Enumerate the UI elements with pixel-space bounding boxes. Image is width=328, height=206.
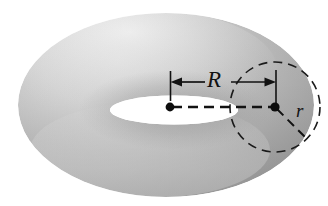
torus-figure: R r xyxy=(0,0,328,206)
tube-center-dot xyxy=(270,102,279,111)
torus-hole xyxy=(110,96,238,125)
hub-center-dot xyxy=(166,103,175,112)
minor-radius-label: r xyxy=(296,101,303,120)
torus-illustration xyxy=(0,0,328,206)
major-radius-label: R xyxy=(207,68,221,91)
